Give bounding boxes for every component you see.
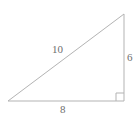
triangle-drawing <box>0 0 139 124</box>
right-angle-marker-icon <box>116 93 124 101</box>
triangle-outline <box>8 14 124 101</box>
base-leg-length-label: 8 <box>60 104 66 115</box>
vertical-leg-length-label: 6 <box>127 52 133 63</box>
hypotenuse-length-label: 10 <box>52 44 63 55</box>
right-triangle-figure: 10 6 8 <box>0 0 139 124</box>
